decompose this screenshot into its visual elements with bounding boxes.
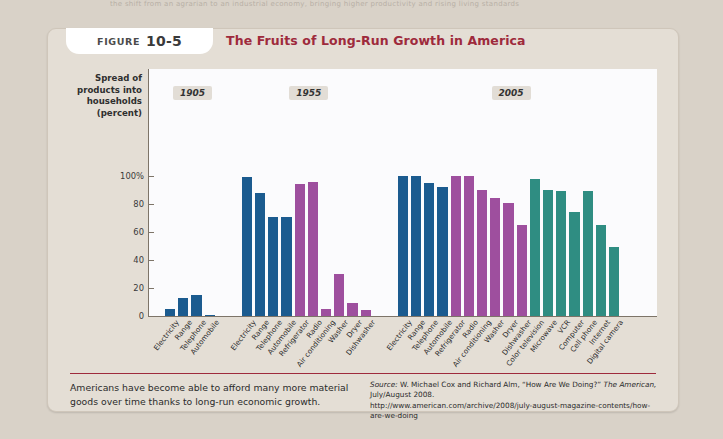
bar <box>556 191 566 316</box>
source-line2: July/August 2008. <box>370 390 434 399</box>
bar <box>530 179 540 316</box>
bar <box>308 182 318 316</box>
bar <box>361 310 371 316</box>
bar <box>477 190 487 316</box>
y-tick-label: 40 <box>106 255 144 265</box>
bar <box>583 191 593 316</box>
bar <box>490 198 500 316</box>
x-axis-line <box>148 316 657 317</box>
y-tick-label: 60 <box>106 227 144 237</box>
figure-caption: Americans have become able to afford man… <box>70 381 350 409</box>
bar <box>165 309 175 316</box>
bar <box>569 212 579 316</box>
bar <box>191 295 201 316</box>
bar <box>424 183 434 316</box>
bar <box>205 315 215 316</box>
bar <box>451 176 461 316</box>
source-prefix: Source: <box>370 380 398 389</box>
y-tick-label: 100% <box>106 171 144 181</box>
bar <box>242 177 252 316</box>
source-url: http://www.american.com/archive/2008/jul… <box>370 401 650 420</box>
figure-panel: Figure 10-5 The Fruits of Long-Run Growt… <box>47 28 679 412</box>
figure-page: the shift from an agrarian to an industr… <box>0 0 723 439</box>
footer-divider <box>70 373 656 374</box>
y-tick-label: 20 <box>106 283 144 293</box>
bar <box>295 184 305 316</box>
source-publication: The American, <box>603 380 656 389</box>
bar <box>334 274 344 316</box>
bar <box>517 225 527 316</box>
source-line1: W. Michael Cox and Richard Alm, “How Are… <box>398 380 604 389</box>
bar <box>398 176 408 316</box>
bar <box>437 187 447 316</box>
y-tick-label: 0 <box>106 311 144 321</box>
y-tick-label: 80 <box>106 199 144 209</box>
bar <box>347 303 357 316</box>
bar <box>178 298 188 316</box>
bar <box>596 225 606 316</box>
bar-series <box>149 69 657 316</box>
bar <box>281 217 291 316</box>
x-axis-labels: ElectricityRangeTelephoneAutomobileElect… <box>149 318 669 380</box>
bar <box>255 193 265 316</box>
bar <box>464 176 474 316</box>
figure-source: Source: W. Michael Cox and Richard Alm, … <box>370 380 660 422</box>
chart-area: Spread ofproducts intohouseholds(percent… <box>48 29 678 411</box>
bar <box>268 217 278 316</box>
bar <box>543 190 553 316</box>
bar <box>411 176 421 316</box>
page-bleed-text: the shift from an agrarian to an industr… <box>110 0 630 16</box>
bar <box>609 247 619 316</box>
y-axis-label: Spread ofproducts intohouseholds(percent… <box>64 73 142 119</box>
bar <box>321 309 331 316</box>
bar <box>503 203 513 316</box>
